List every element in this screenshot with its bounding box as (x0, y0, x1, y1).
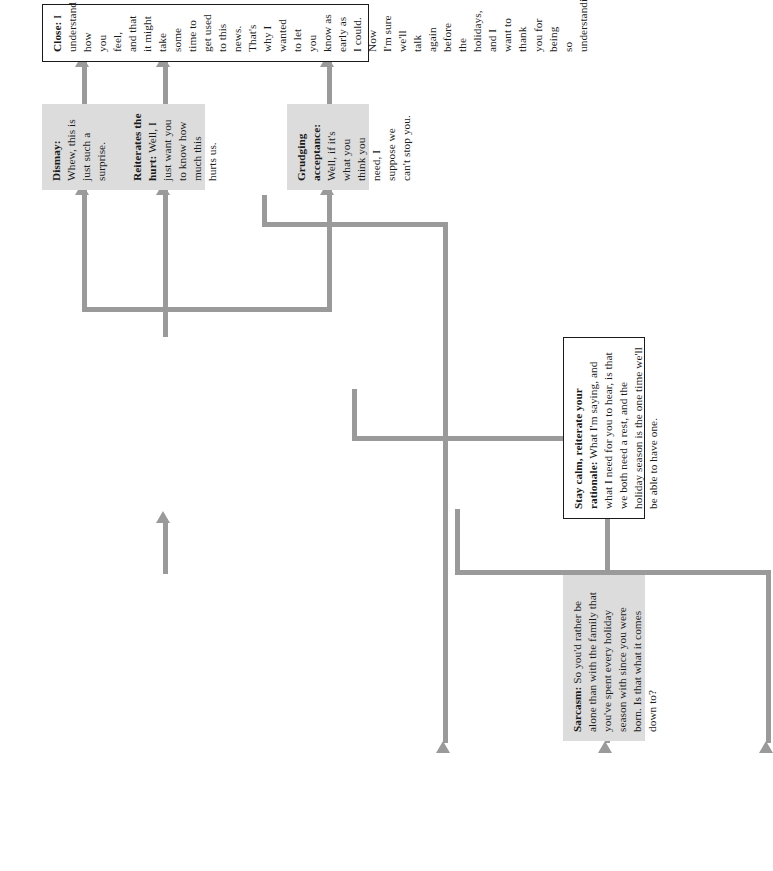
connector-stay-calm-to-hurt (163, 190, 168, 312)
connector-grudging-to-close (327, 62, 332, 104)
connector-dismay-to-sarcasm-horizontal (766, 570, 771, 743)
node-reiterates-hurt[interactable]: Reiterates the hurt: Well, I just want y… (123, 104, 205, 190)
arrowhead-into-stay-calm (156, 511, 170, 523)
node-dismay-body: Whew, this is just such a surprise. (65, 119, 107, 181)
node-grudging-acceptance-body: Well, if it's what you think you need, I… (325, 115, 412, 181)
node-sarcasm-label: Sarcasm: (571, 687, 583, 732)
node-sarcasm-body: So you'd rather be alone than with the f… (571, 592, 658, 732)
node-close[interactable]: Close: I understand how you feel, and th… (42, 4, 369, 62)
connector-grudging-to-sarcasm-vertical (262, 222, 448, 227)
node-close-label: Close: (51, 22, 63, 52)
connector-grudging-to-sarcasm-horizontal (443, 222, 448, 743)
node-sarcasm[interactable]: Sarcasm: So you'd rather be alone than w… (563, 575, 645, 741)
node-close-body: I understand how you feel, and that it m… (51, 0, 589, 52)
connector-dismay-to-close (82, 62, 87, 104)
connector-sarcasm-to-stay-calm (163, 519, 168, 574)
arrowhead-into-sarcasm-bottom (759, 741, 773, 753)
node-grudging-acceptance-label: Grudging acceptance: (295, 124, 322, 181)
connector-stay-calm-to-grudging (327, 190, 332, 312)
connector-grudging-to-sarcasm-return (262, 195, 267, 227)
arrowhead-into-sarcasm-top (436, 741, 450, 753)
connector-stay-calm-to-dismay (82, 190, 87, 312)
node-grudging-acceptance[interactable]: Grudging acceptance: Well, if it's what … (287, 104, 369, 190)
connector-dismay-to-sarcasm-return (455, 509, 460, 575)
connector-hurt-to-sarcasm-return (352, 389, 357, 441)
node-dismay-label: Dismay: (50, 140, 62, 181)
node-dismay[interactable]: Dismay: Whew, this is just such a surpri… (42, 104, 124, 190)
node-stay-calm[interactable]: Stay calm, reiterate your rationale: Wha… (563, 337, 645, 519)
connector-hurt-to-close (163, 62, 168, 104)
arrowhead-into-sarcasm-middle (598, 741, 612, 753)
connector-stay-calm-trunk-vertical (82, 307, 332, 312)
